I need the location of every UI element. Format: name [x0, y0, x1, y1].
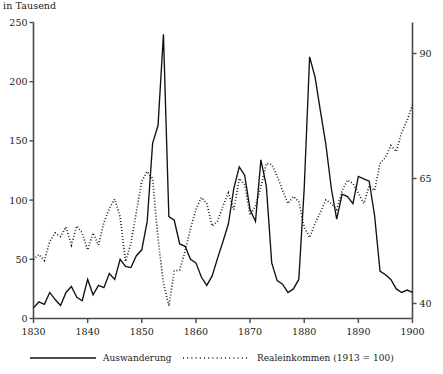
- left-axis-tick-label: 50: [15, 254, 27, 265]
- right-axis-tick-label: 65: [420, 173, 432, 184]
- left-axis-tick-label: 250: [9, 17, 27, 28]
- x-axis-tick-label: 1890: [346, 326, 370, 337]
- left-axis-tick-label: 100: [9, 195, 27, 206]
- series-line-realeinkommen: [34, 105, 413, 306]
- left-axis-tick-label: 0: [21, 313, 27, 324]
- legend-label-auswanderung: Auswanderung: [102, 353, 172, 363]
- chart-figure: in Tausend 050100150200250 406590 183018…: [0, 0, 443, 374]
- x-axis-tick-label: 1850: [130, 326, 154, 337]
- legend-label-realeinkommen: Realeinkommen (1913 = 100): [257, 353, 394, 363]
- x-axis-tick-label: 1830: [21, 326, 45, 337]
- chart-svg: 050100150200250 406590 18301840185018601…: [0, 0, 443, 374]
- series-lines: [34, 34, 413, 308]
- x-axis-tick-label: 1860: [184, 326, 208, 337]
- x-axis: 18301840185018601870188018901900: [21, 319, 424, 337]
- chart-legend: AuswanderungRealeinkommen (1913 = 100): [30, 353, 394, 363]
- x-axis-tick-label: 1870: [238, 326, 262, 337]
- left-axis-tick-label: 200: [9, 76, 27, 87]
- x-axis-tick-label: 1900: [400, 326, 424, 337]
- right-axis: 406590: [413, 23, 432, 319]
- series-line-auswanderung: [34, 34, 413, 308]
- x-axis-tick-label: 1880: [292, 326, 316, 337]
- right-axis-tick-label: 40: [420, 298, 432, 309]
- left-axis-tick-label: 150: [9, 135, 27, 146]
- left-axis: 050100150200250: [9, 17, 33, 324]
- x-axis-tick-label: 1840: [76, 326, 100, 337]
- right-axis-tick-label: 90: [420, 48, 432, 59]
